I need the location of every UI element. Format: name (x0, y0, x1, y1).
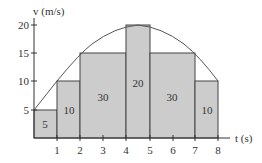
area-label-1: 10 (64, 104, 76, 116)
x-tick-2: 2 (77, 144, 83, 156)
area-label-2: 30 (98, 91, 110, 103)
y-tick-15: 15 (18, 47, 30, 59)
area-label-3: 20 (133, 77, 145, 89)
area-label-5: 10 (202, 104, 214, 116)
area-label-4: 30 (167, 91, 179, 103)
x-tick-1: 1 (54, 144, 60, 156)
x-tick-7: 7 (192, 144, 198, 156)
velocity-time-diagram: v (m/s) t (s) 5 10 15 20 1 2 3 4 5 6 7 8… (0, 0, 262, 163)
area-label-0: 5 (42, 118, 48, 130)
y-tick-20: 20 (18, 19, 30, 31)
y-axis-label: v (m/s) (33, 5, 65, 18)
x-tick-4: 4 (123, 144, 129, 156)
x-tick-3: 3 (100, 144, 106, 156)
x-tick-5: 5 (147, 144, 153, 156)
x-axis-label: t (s) (235, 132, 253, 145)
x-tick-6: 6 (170, 144, 176, 156)
riemann-rectangles (34, 25, 218, 138)
y-tick-10: 10 (18, 75, 30, 87)
y-tick-5: 5 (24, 104, 30, 116)
x-tick-8: 8 (215, 144, 221, 156)
